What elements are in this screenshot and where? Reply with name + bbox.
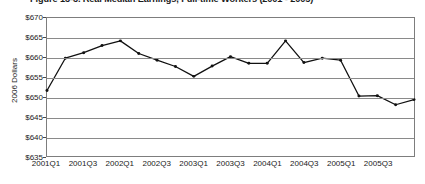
data-point-marker (376, 94, 379, 97)
y-axis-tick-labels: $670$665$660$655$650$645$640$635 (0, 17, 46, 157)
data-point-marker (174, 65, 177, 68)
data-point-marker (119, 39, 122, 42)
x-axis-tick-label: 2004Q1 (253, 159, 281, 168)
y-axis-tick-label: $650 (25, 93, 43, 102)
data-point-marker (284, 39, 287, 42)
x-axis-tick-label: 2002Q3 (142, 159, 170, 168)
gridline (47, 98, 414, 99)
x-axis-tick-label: 2004Q3 (290, 159, 318, 168)
y-axis-tick-label: $660 (25, 53, 43, 62)
y-axis-tick-label: $645 (25, 113, 43, 122)
y-axis-tick-label: $670 (25, 13, 43, 22)
y-axis-tick-label: $640 (25, 133, 43, 142)
y-axis-tick-mark (43, 157, 46, 158)
x-axis-tick-label: 2002Q1 (106, 159, 134, 168)
x-axis-tick-labels: 2001Q12001Q32002Q12002Q32003Q12003Q32004… (46, 159, 415, 173)
y-axis-tick-label: $655 (25, 73, 43, 82)
gridline (47, 138, 414, 139)
x-axis-tick-label: 2001Q1 (32, 159, 60, 168)
data-point-marker (137, 52, 140, 55)
data-point-marker (394, 103, 397, 106)
figure-title: Figure 13-3. Real Median Earnings, Full-… (30, 0, 425, 6)
data-point-marker (82, 51, 85, 54)
data-point-marker (302, 61, 305, 64)
gridline (47, 78, 414, 79)
plot-area (46, 17, 415, 157)
data-point-marker (101, 44, 104, 47)
x-axis-tick-label: 2005Q1 (327, 159, 355, 168)
x-axis-tick-label: 2005Q3 (364, 159, 392, 168)
figure-container: Figure 13-3. Real Median Earnings, Full-… (0, 0, 425, 184)
y-axis-tick-label: $665 (25, 33, 43, 42)
data-point-marker (247, 62, 250, 65)
x-axis-tick-label: 2001Q3 (69, 159, 97, 168)
x-axis-tick-label: 2003Q3 (216, 159, 244, 168)
data-point-marker (156, 59, 159, 62)
data-point-marker (266, 62, 269, 65)
gridline (47, 58, 414, 59)
data-point-marker (211, 65, 214, 68)
data-point-marker (46, 89, 49, 92)
data-point-marker (339, 59, 342, 62)
x-axis-tick-label: 2003Q1 (179, 159, 207, 168)
gridline (47, 38, 414, 39)
gridline (47, 118, 414, 119)
